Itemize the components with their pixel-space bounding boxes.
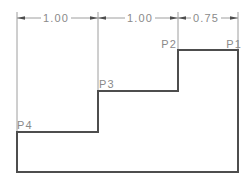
dimension-line: 1.00 1.00 0.75	[17, 11, 238, 24]
point-label-p2: P2	[161, 38, 177, 50]
arrowhead-left-outer	[17, 16, 25, 20]
dimension-label-3: 0.75	[193, 12, 219, 24]
profile-outline	[17, 50, 238, 172]
dimension-label-1: 1.00	[43, 12, 69, 24]
point-label-p3: P3	[99, 78, 115, 90]
point-label-p1: P1	[226, 38, 242, 50]
extension-lines	[17, 12, 238, 132]
drawing-canvas: 1.00 1.00 0.75 P1 P2 P3 P4	[0, 0, 251, 186]
arrowhead-right-outer	[230, 16, 238, 20]
technical-drawing: 1.00 1.00 0.75 P1 P2 P3 P4	[0, 0, 251, 186]
point-label-p4: P4	[17, 119, 33, 131]
arrowhead-seg3-left	[178, 16, 186, 20]
dimension-label-2: 1.00	[127, 12, 153, 24]
arrowhead-seg2-right	[170, 16, 178, 20]
point-labels: P1 P2 P3 P4	[17, 38, 242, 131]
arrowhead-seg1-right	[90, 16, 98, 20]
arrowhead-seg2-left	[98, 16, 106, 20]
